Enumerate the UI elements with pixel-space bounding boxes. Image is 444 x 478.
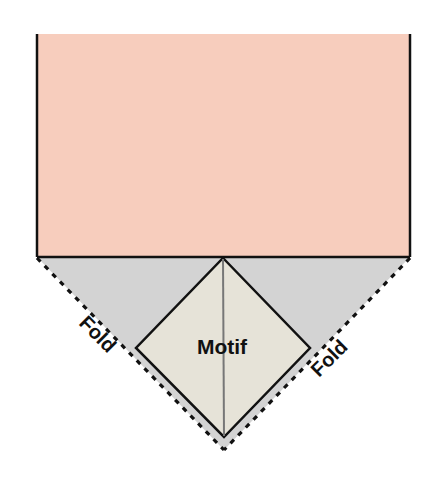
fabric-panel	[37, 34, 410, 257]
motif-label: Motif	[197, 335, 248, 358]
fold-diagram: Motif Fold Fold	[0, 0, 444, 478]
